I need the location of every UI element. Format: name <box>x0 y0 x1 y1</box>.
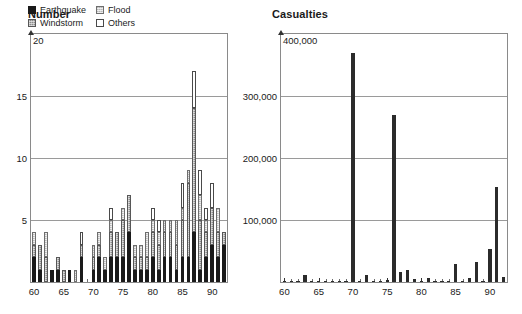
bar-segment-flood-80 <box>151 220 155 232</box>
windstorm-swatch-icon <box>28 19 36 27</box>
bar-segment-earthquake-86 <box>187 257 191 282</box>
y-axis-label-15: 15 <box>16 91 27 102</box>
bar-column-67 <box>74 270 78 282</box>
bar-segment-flood-62 <box>44 232 48 257</box>
bar-68 <box>338 281 341 282</box>
legend-item-flood: Flood <box>96 5 135 15</box>
bar-segment-earthquake-89 <box>204 257 208 282</box>
bar-85 <box>454 264 457 282</box>
bar-segment-earthquake-75 <box>121 257 125 282</box>
bar-segment-flood-79 <box>145 232 149 257</box>
bar-77 <box>399 272 402 282</box>
bar-71 <box>358 281 361 282</box>
legend-item-earthquake: Earthquake <box>28 5 86 15</box>
earthquake-swatch-icon <box>28 6 36 14</box>
bar-column-81 <box>157 220 161 282</box>
casualties-chart-title: Casualties <box>272 8 328 20</box>
bar-segment-earthquake-90 <box>210 245 214 282</box>
bar-segment-windstorm-92 <box>222 232 226 244</box>
bar-segment-windstorm-90 <box>210 208 214 245</box>
bar-segment-windstorm-68 <box>80 245 84 257</box>
bar-69 <box>344 281 347 282</box>
bar-segment-flood-72 <box>103 257 107 269</box>
y-axis-label-400000: 400,000 <box>283 35 317 46</box>
bar-column-70 <box>92 245 96 282</box>
bar-column-63 <box>50 270 54 282</box>
bar-76 <box>392 115 395 282</box>
x-axis-label-75: 75 <box>118 286 129 297</box>
bar-61 <box>290 281 293 282</box>
casualties-plot-area: 100,000200,000300,000400,000606570758085… <box>280 33 508 283</box>
bar-segment-windstorm-77 <box>133 257 137 269</box>
bar-column-76 <box>127 195 131 282</box>
bar-segment-windstorm-91 <box>216 232 220 257</box>
bar-83 <box>440 281 443 282</box>
bar-segment-earthquake-83 <box>169 257 173 282</box>
bar-62 <box>296 281 299 282</box>
bar-segment-earthquake-60 <box>32 257 36 282</box>
y-axis-label-300000: 300,000 <box>243 91 277 102</box>
x-axis-label-65: 65 <box>58 286 69 297</box>
bar-segment-earthquake-72 <box>103 270 107 282</box>
x-axis-label-75: 75 <box>382 286 393 297</box>
bar-segment-flood-71 <box>97 232 101 244</box>
bar-65 <box>317 281 320 282</box>
bar-segment-windstorm-65 <box>62 270 66 282</box>
bar-66 <box>324 281 327 282</box>
bar-segment-flood-88 <box>198 195 202 220</box>
bar-column-66 <box>68 270 72 282</box>
bar-column-60 <box>32 232 36 282</box>
bar-segment-flood-81 <box>157 232 161 244</box>
bar-segment-flood-84 <box>175 220 179 245</box>
bar-segment-earthquake-63 <box>50 270 54 282</box>
bar-column-73 <box>109 208 113 282</box>
bar-segment-earthquake-74 <box>115 257 119 282</box>
flood-swatch-icon <box>96 6 104 14</box>
bar-segment-earthquake-87 <box>192 232 196 282</box>
bar-segment-others-81 <box>157 220 161 232</box>
bar-73 <box>372 281 375 282</box>
bar-column-62 <box>44 232 48 282</box>
bar-column-85 <box>181 183 185 282</box>
bar-segment-windstorm-87 <box>192 108 196 232</box>
figure-root: Number 510152060657075808590 Earthquake … <box>0 0 522 314</box>
bar-segment-earthquake-77 <box>133 270 137 282</box>
bar-column-65 <box>62 270 66 282</box>
y-axis-label-10: 10 <box>16 153 27 164</box>
x-axis-label-60: 60 <box>29 286 40 297</box>
legend-label-flood: Flood <box>108 5 131 15</box>
bar-segment-windstorm-76 <box>127 195 131 232</box>
bar-segment-earthquake-79 <box>145 270 149 282</box>
bar-segment-windstorm-78 <box>139 257 143 269</box>
bar-segment-flood-70 <box>92 245 96 257</box>
x-axis-label-90: 90 <box>485 286 496 297</box>
others-swatch-icon <box>96 19 104 27</box>
bar-column-80 <box>151 208 155 282</box>
bar-segment-windstorm-83 <box>169 232 173 257</box>
bar-segment-others-73 <box>109 208 113 220</box>
y-axis-label-100000: 100,000 <box>243 215 277 226</box>
number-chart-legend: Earthquake Flood Windstorm Others <box>28 5 135 28</box>
bar-segment-windstorm-74 <box>115 232 119 257</box>
bar-segment-windstorm-73 <box>109 232 113 257</box>
bar-90 <box>488 249 491 282</box>
bar-80 <box>420 281 423 282</box>
bar-column-89 <box>204 208 208 282</box>
bar-79 <box>413 279 416 282</box>
bar-segment-earthquake-76 <box>127 232 131 282</box>
bar-segment-others-89 <box>204 208 208 220</box>
bar-column-86 <box>187 170 191 282</box>
x-axis-label-70: 70 <box>348 286 359 297</box>
bar-column-78 <box>139 245 143 282</box>
x-axis-label-70: 70 <box>88 286 99 297</box>
bar-column-72 <box>103 257 107 282</box>
bar-segment-earthquake-71 <box>97 257 101 282</box>
number-plot-inner: 510152060657075808590 <box>31 34 227 282</box>
bar-72 <box>365 275 368 282</box>
bar-segment-others-90 <box>210 183 214 208</box>
bar-segment-windstorm-82 <box>163 232 167 257</box>
bar-segment-earthquake-64 <box>56 270 60 282</box>
bar-segment-windstorm-60 <box>32 245 36 257</box>
bar-segment-earthquake-82 <box>163 257 167 282</box>
bar-segment-windstorm-85 <box>181 220 185 257</box>
